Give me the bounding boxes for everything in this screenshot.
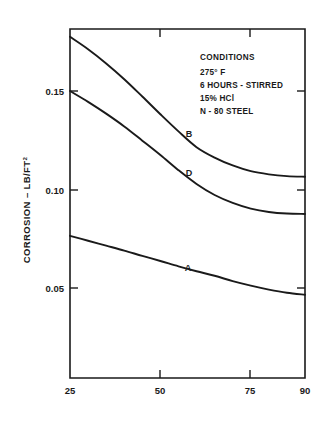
corrosion-chart-figure: 0.15 0.10 0.05 25 50 75 90 CORROSION – L…	[0, 0, 332, 423]
series-label-A: A	[185, 263, 192, 273]
y-axis-title-main: CORROSION – LB/FT	[21, 160, 32, 263]
x-tick-label-25: 25	[65, 385, 76, 396]
x-tick-label-75: 75	[245, 385, 256, 396]
y-axis-title-exponent: 2	[21, 156, 28, 160]
y-tick-label-1: 0.10	[46, 185, 65, 196]
series-label-D: D	[186, 168, 193, 178]
conditions-line-temperature: 275° F	[200, 68, 225, 77]
x-tick-label-50: 50	[155, 385, 166, 396]
x-tick-label-90: 90	[300, 385, 311, 396]
chart-background	[0, 0, 332, 423]
y-tick-label-0: 0.15	[46, 86, 65, 97]
conditions-title: CONDITIONS	[200, 53, 255, 62]
conditions-line-duration: 6 HOURS - STIRRED	[200, 81, 283, 90]
conditions-line-acid: 15% HCl	[200, 94, 234, 103]
y-axis-title: CORROSION – LB/FT2	[21, 156, 33, 263]
chart-canvas: 0.15 0.10 0.05 25 50 75 90 CORROSION – L…	[0, 0, 332, 423]
y-axis-title-group: CORROSION – LB/FT2	[21, 156, 33, 263]
conditions-line-steel: N - 80 STEEL	[200, 107, 253, 116]
series-label-B: B	[186, 129, 193, 139]
y-tick-label-2: 0.05	[46, 283, 65, 294]
